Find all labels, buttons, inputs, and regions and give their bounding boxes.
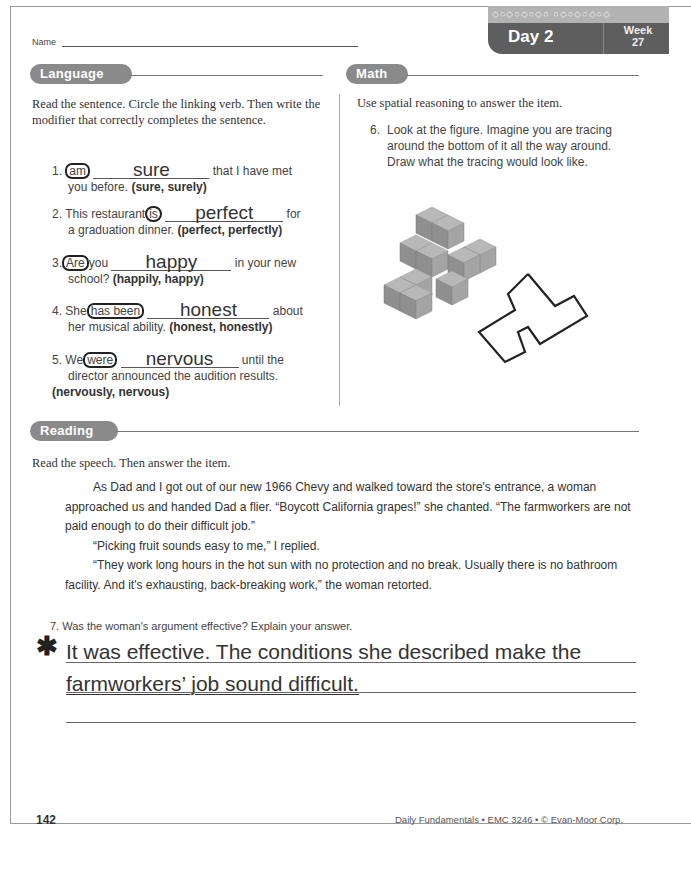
week-word: Week bbox=[608, 24, 668, 36]
sentence-text: for bbox=[287, 207, 301, 221]
handwritten-answer: honest bbox=[147, 300, 269, 319]
sentence-text: in your new bbox=[235, 256, 296, 270]
language-section-title: Language bbox=[30, 64, 132, 84]
sentence-text: that I have met bbox=[213, 164, 292, 178]
item-text: Look at the figure. Imagine you are trac… bbox=[370, 122, 640, 170]
answer-blank[interactable]: sure bbox=[93, 164, 209, 179]
asterisk-icon: ✱ bbox=[36, 633, 58, 659]
math-instructions: Use spatial reasoning to answer the item… bbox=[357, 96, 562, 111]
language-item-3: 3.Areyou happy in your new school? (happ… bbox=[52, 255, 337, 287]
language-item-2: 2. This restaurantis perfect for a gradu… bbox=[52, 206, 337, 238]
passage-paragraph: “Picking fruit sounds easy to me,” I rep… bbox=[65, 537, 645, 557]
footer-credit: Daily Fundamentals • EMC 3246 • © Evan-M… bbox=[395, 814, 623, 825]
answer-line-1 bbox=[66, 662, 636, 663]
word-options: (honest, honestly) bbox=[169, 320, 272, 334]
sentence-text: She bbox=[65, 304, 86, 318]
math-section-rule bbox=[406, 75, 639, 76]
circled-linking-verb[interactable]: Are bbox=[62, 255, 89, 271]
question-7: 7. Was the woman's argument effective? E… bbox=[50, 620, 352, 632]
reading-section-rule bbox=[116, 431, 639, 432]
passage-paragraph: “They work long hours in the hot sun wit… bbox=[65, 556, 645, 595]
name-label: Name bbox=[32, 37, 56, 47]
day-week-badge: ◇○◇○◇○◇○ ○◇○◇○◇○◇ Day 2 Week 27 bbox=[488, 6, 669, 54]
language-item-4: 4. Shehas been honest about her musical … bbox=[52, 303, 337, 335]
reading-passage: As Dad and I got out of our new 1966 Che… bbox=[65, 478, 645, 595]
name-field-line[interactable] bbox=[62, 46, 358, 47]
circled-linking-verb[interactable]: is bbox=[145, 206, 162, 222]
reading-instructions: Read the speech. Then answer the item. bbox=[32, 456, 230, 471]
word-options: (perfect, perfectly) bbox=[177, 223, 282, 237]
word-options: (nervously, nervous) bbox=[52, 385, 169, 399]
word-options: (happily, happy) bbox=[113, 272, 204, 286]
badge-main: Day 2 Week 27 bbox=[488, 23, 669, 54]
week-number: 27 bbox=[608, 36, 668, 48]
badge-divider bbox=[603, 23, 604, 54]
word-options: (sure, surely) bbox=[131, 180, 206, 194]
item-number: 6. bbox=[370, 122, 380, 138]
passage-paragraph: As Dad and I got out of our new 1966 Che… bbox=[65, 478, 645, 537]
circled-linking-verb[interactable]: am bbox=[65, 163, 90, 179]
item-number: 3. bbox=[52, 256, 62, 270]
sentence-text: you bbox=[89, 256, 108, 270]
column-divider bbox=[339, 94, 340, 406]
question-text: Was the woman's argument effective? Expl… bbox=[62, 620, 352, 632]
decorative-pattern: ◇○◇○◇○◇○ ○◇○◇○◇○◇ bbox=[492, 10, 611, 19]
reading-section-title: Reading bbox=[30, 421, 118, 441]
sentence-text-line2: her musical ability. bbox=[52, 320, 166, 334]
sentence-text-line2: director announced the audition results. bbox=[52, 369, 278, 383]
answer-line-3[interactable] bbox=[66, 722, 636, 723]
language-instructions: Read the sentence. Circle the linking ve… bbox=[32, 96, 332, 128]
sentence-text: until the bbox=[242, 353, 284, 367]
sentence-text-line2: you before. bbox=[52, 180, 128, 194]
handwritten-answer: nervous bbox=[121, 349, 239, 368]
sentence-text: This restaurant bbox=[65, 207, 145, 221]
sentence-text: about bbox=[273, 304, 303, 318]
answer-line-2 bbox=[66, 692, 636, 693]
item-number: 2. bbox=[52, 207, 62, 221]
answer-blank[interactable]: honest bbox=[147, 304, 269, 319]
math-section-title: Math bbox=[346, 64, 408, 84]
answer-blank[interactable]: nervous bbox=[121, 353, 239, 368]
item-number: 4. bbox=[52, 304, 62, 318]
traced-outline-answer[interactable] bbox=[475, 270, 595, 370]
math-item-6: 6. Look at the figure. Imagine you are t… bbox=[370, 122, 640, 170]
page-number: 142 bbox=[36, 813, 56, 827]
handwritten-answer: happy bbox=[111, 252, 231, 271]
answer-blank[interactable]: perfect bbox=[165, 207, 283, 222]
answer-blank[interactable]: happy bbox=[111, 256, 231, 271]
item-number: 1. bbox=[52, 164, 62, 178]
handwritten-answer: perfect bbox=[165, 203, 283, 222]
language-item-5: 5. Wewere nervous until the director ann… bbox=[52, 352, 337, 400]
language-section-rule bbox=[130, 75, 323, 76]
handwritten-answer: sure bbox=[93, 160, 209, 179]
sentence-text: We bbox=[65, 353, 83, 367]
week-label: Week 27 bbox=[608, 24, 668, 48]
circled-linking-verb[interactable]: has been bbox=[87, 303, 144, 319]
language-item-1: 1. am sure that I have met you before. (… bbox=[52, 163, 332, 195]
circled-linking-verb[interactable]: were bbox=[83, 352, 117, 368]
item-number: 5. bbox=[52, 353, 62, 367]
handwritten-answer-line-1[interactable]: It was effective. The conditions she des… bbox=[66, 640, 581, 664]
badge-pattern-strip: ◇○◇○◇○◇○ ○◇○◇○◇○◇ bbox=[488, 6, 669, 23]
sentence-text-line2: school? bbox=[52, 272, 109, 286]
sentence-text-line2: a graduation dinner. bbox=[52, 223, 174, 237]
day-label: Day 2 bbox=[508, 27, 553, 47]
